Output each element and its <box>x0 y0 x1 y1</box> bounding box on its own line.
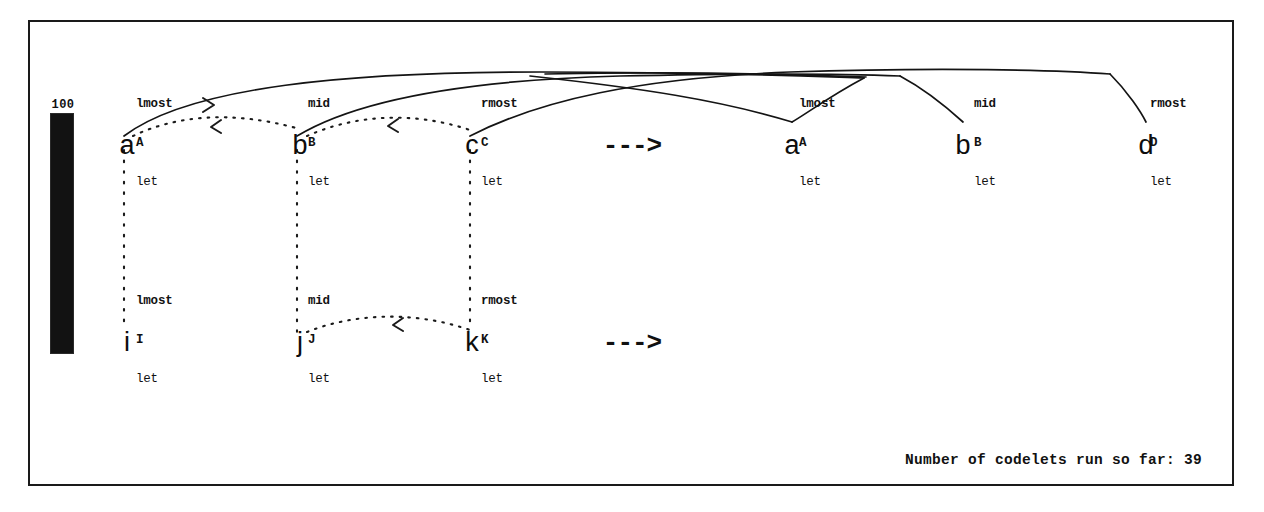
descriptors-k-target: rmost K let <box>481 269 539 412</box>
temperature-gauge[interactable]: 100 <box>44 98 88 354</box>
descriptor-position: lmost <box>799 98 857 111</box>
descriptor-position: mid <box>974 98 1032 111</box>
copycat-window: 100 <box>0 0 1264 512</box>
translated-rule-arrow: ---> <box>603 330 661 356</box>
descriptor-position: mid <box>308 295 366 308</box>
descriptors-a-modified: lmost A let <box>799 72 857 215</box>
workspace-frame <box>28 20 1234 486</box>
letter-b-initial[interactable]: b <box>292 132 307 159</box>
descriptor-category: A <box>136 137 194 150</box>
descriptor-object: let <box>136 373 194 386</box>
temperature-value-label: 100 <box>44 98 82 112</box>
descriptor-object: let <box>974 176 1032 189</box>
descriptor-object: let <box>308 176 366 189</box>
descriptor-object: let <box>481 373 539 386</box>
descriptor-position: lmost <box>136 98 194 111</box>
rule-arrow: ---> <box>603 133 661 159</box>
descriptor-position: mid <box>308 98 366 111</box>
descriptor-category: B <box>308 137 366 150</box>
descriptor-category: J <box>308 334 366 347</box>
temperature-track <box>50 113 74 354</box>
descriptor-category: B <box>974 137 1032 150</box>
letter-j-target[interactable]: j <box>297 329 303 356</box>
descriptor-category: D <box>1150 137 1208 150</box>
codelet-counter: Number of codelets run so far: 39 <box>905 452 1202 468</box>
descriptor-object: let <box>136 176 194 189</box>
letter-a-initial[interactable]: a <box>119 132 134 159</box>
letter-i-target[interactable]: i <box>124 329 130 356</box>
descriptors-b-initial: mid B let <box>308 72 366 215</box>
descriptor-position: rmost <box>481 295 539 308</box>
descriptors-i-target: lmost I let <box>136 269 194 412</box>
temperature-fill <box>51 114 73 353</box>
descriptor-position: rmost <box>481 98 539 111</box>
descriptor-object: let <box>1150 176 1208 189</box>
descriptor-object: let <box>799 176 857 189</box>
descriptor-category: K <box>481 334 539 347</box>
descriptor-category: I <box>136 334 194 347</box>
descriptors-c-initial: rmost C let <box>481 72 539 215</box>
descriptor-object: let <box>308 373 366 386</box>
descriptors-b-modified: mid B let <box>974 72 1032 215</box>
letter-a-modified[interactable]: a <box>784 132 799 159</box>
letter-c-initial[interactable]: c <box>465 132 479 159</box>
descriptors-d-modified: rmost D let <box>1150 72 1208 215</box>
descriptor-object: let <box>481 176 539 189</box>
descriptor-category: A <box>799 137 857 150</box>
descriptors-j-target: mid J let <box>308 269 366 412</box>
letter-b-modified[interactable]: b <box>955 132 970 159</box>
descriptor-position: lmost <box>136 295 194 308</box>
descriptor-category: C <box>481 137 539 150</box>
letter-k-target[interactable]: k <box>465 329 479 356</box>
descriptors-a-initial: lmost A let <box>136 72 194 215</box>
descriptor-position: rmost <box>1150 98 1208 111</box>
